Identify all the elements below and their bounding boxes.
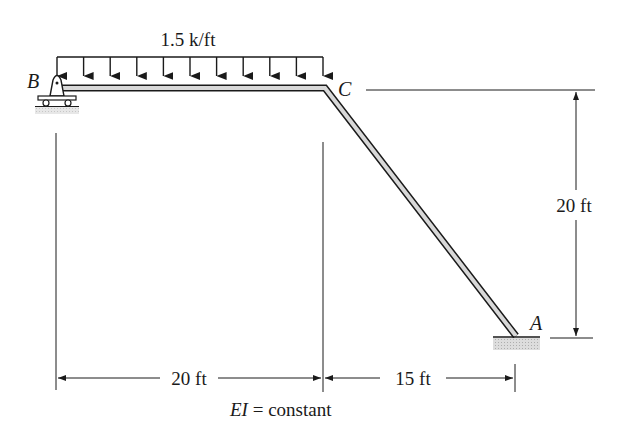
frame-members bbox=[62, 88, 516, 336]
horizontal-dimensions bbox=[56, 133, 515, 392]
stiffness-note: EI = constant bbox=[229, 399, 332, 420]
roller-support-B bbox=[35, 76, 79, 115]
node-label-A: A bbox=[528, 312, 543, 334]
stiffness-note-prefix: EI bbox=[229, 399, 250, 420]
distributed-load: 1.5 k/ft bbox=[57, 29, 323, 76]
node-label-B: B bbox=[27, 70, 39, 92]
node-label-C: C bbox=[338, 78, 352, 100]
stiffness-note-suffix: = constant bbox=[248, 399, 332, 420]
fixed-support-A bbox=[493, 337, 540, 350]
frame-diagram: 1.5 k/ft B C A 20 ft bbox=[0, 0, 630, 435]
dimension-horizontal-CA: 15 ft bbox=[395, 368, 431, 389]
load-label: 1.5 k/ft bbox=[161, 29, 217, 50]
load-arrows bbox=[57, 57, 323, 76]
dimension-vertical-CA: 20 ft bbox=[556, 195, 592, 216]
dimension-horizontal-BC: 20 ft bbox=[171, 368, 207, 389]
member-fill bbox=[62, 88, 516, 336]
